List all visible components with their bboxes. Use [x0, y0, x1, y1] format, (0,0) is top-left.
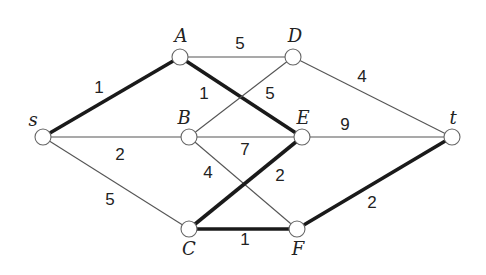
- node-D: [285, 49, 301, 65]
- edge-D-t: [293, 57, 452, 137]
- edge-weight-s-A: 1: [94, 78, 103, 97]
- node-A: [172, 49, 188, 65]
- edge-s-A: [43, 57, 180, 137]
- node-label-D: D: [287, 25, 303, 46]
- edge-weight-s-C: 5: [105, 190, 114, 209]
- node-B: [181, 129, 197, 145]
- edge-weight-B-E: 7: [240, 140, 249, 159]
- weighted-graph: 1515427942512 sADBEtCF: [0, 0, 486, 275]
- edge-weight-D-t: 4: [357, 67, 366, 86]
- edge-weight-A-D: 5: [235, 34, 244, 53]
- node-F: [289, 221, 305, 237]
- node-label-C: C: [182, 238, 196, 259]
- node-E: [294, 129, 310, 145]
- edge-weight-A-E: 1: [199, 84, 208, 103]
- node-t: [444, 129, 460, 145]
- node-label-B: B: [176, 107, 190, 128]
- edge-weight-B-D: 5: [265, 84, 274, 103]
- node-C: [181, 221, 197, 237]
- node-label-E: E: [295, 107, 309, 128]
- edge-F-t: [297, 137, 452, 229]
- edge-weight-E-t: 9: [340, 115, 349, 134]
- node-s: [35, 129, 51, 145]
- edge-weight-C-F: 1: [240, 230, 249, 249]
- edge-weight-C-E: 2: [275, 166, 284, 185]
- edge-weight-s-B: 2: [115, 145, 124, 164]
- node-label-F: F: [291, 238, 306, 259]
- edge-weight-B-F: 4: [203, 163, 212, 182]
- edge-weight-labels: 1515427942512: [94, 34, 376, 249]
- edge-weight-F-t: 2: [367, 193, 376, 212]
- node-label-s: s: [28, 109, 37, 130]
- node-label-t: t: [449, 107, 457, 128]
- node-label-A: A: [173, 25, 188, 46]
